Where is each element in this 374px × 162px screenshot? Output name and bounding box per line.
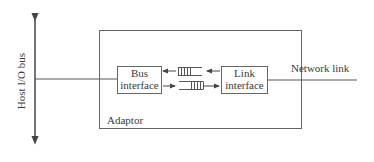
bus-interface-line2: interface xyxy=(117,79,162,91)
transmit-queue xyxy=(179,82,204,90)
link-interface-label: Link interface xyxy=(221,67,268,91)
bus-interface-line1: Bus xyxy=(117,67,162,79)
bus-interface-label: Bus interface xyxy=(117,67,162,91)
link-interface-line1: Link xyxy=(221,67,268,79)
host-io-bus-label: Host I/O bus xyxy=(15,44,27,118)
adaptor-label: Adaptor xyxy=(107,114,143,126)
network-link-label: Network link xyxy=(291,62,349,74)
receive-queue xyxy=(178,68,202,76)
link-interface-line2: interface xyxy=(221,79,268,91)
adaptor-diagram xyxy=(0,0,374,162)
